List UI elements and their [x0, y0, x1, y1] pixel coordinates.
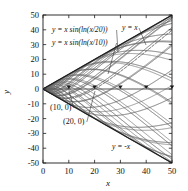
y-axis-label: y	[1, 90, 11, 95]
figure-plot-xsinlnx: 50403020100-10-20-30-40-50 01020304050 y…	[0, 0, 188, 191]
point-annotation: (20, 0)	[63, 117, 85, 126]
y-tick-label: 30	[31, 40, 40, 50]
point-annotation: (10, 0)	[50, 103, 72, 112]
y-tick-label: 40	[31, 25, 40, 35]
y-tick-label: -50	[28, 158, 39, 168]
curve-annotation: y = -x	[111, 142, 131, 151]
y-tick-label: -10	[28, 99, 39, 109]
x-tick-label: 20	[90, 166, 99, 176]
y-tick-label: 0	[35, 84, 39, 94]
y-tick-label: -40	[28, 143, 39, 153]
y-tick-label: 20	[31, 54, 40, 64]
x-axis-label: x	[105, 178, 110, 188]
y-tick-label: 10	[31, 69, 40, 79]
x-tick-label: 50	[168, 166, 177, 176]
chart-canvas: 50403020100-10-20-30-40-50 01020304050 y…	[0, 0, 188, 191]
x-tick-label: 0	[41, 166, 45, 176]
y-tick-label: -20	[28, 114, 39, 124]
x-tick-label: 10	[65, 166, 74, 176]
y-tick-label: -30	[28, 128, 39, 138]
curve-annotation: y = x	[121, 23, 138, 32]
curve-annotation: y = x sin(ln(x/20))	[51, 25, 108, 34]
y-tick-label: 50	[31, 10, 40, 20]
curve-annotation: y = x sin(ln(x/10))	[51, 38, 108, 47]
x-tick-label: 40	[142, 166, 151, 176]
x-tick-label: 30	[116, 166, 125, 176]
